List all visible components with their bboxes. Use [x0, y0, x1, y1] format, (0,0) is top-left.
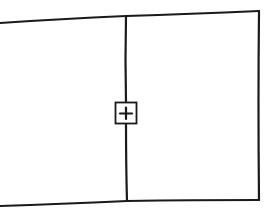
pane-divider-upper[interactable] [126, 16, 127, 102]
wireframe-sketch [0, 0, 278, 216]
top-border [0, 11, 259, 23]
right-border [259, 11, 260, 200]
split-add-button[interactable] [115, 102, 136, 124]
bottom-border [0, 200, 259, 206]
pane-divider-lower[interactable] [126, 124, 127, 201]
